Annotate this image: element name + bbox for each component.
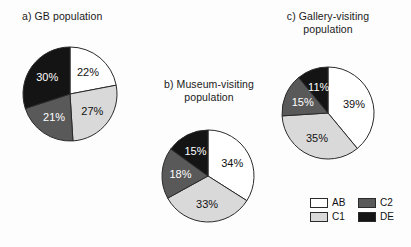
pie-slice-label-a-AB: 22% bbox=[77, 66, 99, 78]
legend-item-c1[interactable]: C1 bbox=[310, 212, 345, 222]
pie-slice-label-a-C2: 21% bbox=[43, 111, 65, 123]
legend-label-c1: C1 bbox=[332, 212, 345, 222]
pie-slice-label-b-C1: 33% bbox=[196, 198, 218, 210]
legend-item-ab[interactable]: AB bbox=[310, 198, 345, 208]
pie-slice-label-b-DE: 15% bbox=[184, 145, 206, 157]
legend-label-de: DE bbox=[380, 212, 394, 222]
legend-label-c2: C2 bbox=[380, 198, 393, 208]
pie-slice-label-a-C1: 27% bbox=[81, 105, 103, 117]
legend-swatch-c1 bbox=[310, 212, 328, 222]
pie-slice-label-c-AB: 39% bbox=[343, 98, 365, 110]
pie-slice-label-b-C2: 18% bbox=[169, 168, 191, 180]
pie-chart-figure: a) GB population b) Museum-visiting popu… bbox=[0, 0, 411, 247]
legend-swatch-ab bbox=[310, 198, 328, 208]
pie-chart-c: 39%35%15%11% bbox=[282, 67, 374, 159]
legend-label-ab: AB bbox=[332, 198, 345, 208]
legend-swatch-c2 bbox=[358, 198, 376, 208]
legend-swatch-de bbox=[358, 212, 376, 222]
pie-chart-b-title: b) Museum-visiting population bbox=[143, 78, 275, 103]
pie-slice-label-b-AB: 34% bbox=[221, 157, 243, 169]
pie-chart-b: 34%33%18%15% bbox=[162, 130, 254, 222]
pie-slice-label-a-DE: 30% bbox=[36, 71, 58, 83]
pie-slice-label-c-DE: 11% bbox=[308, 81, 329, 93]
pie-chart-a-title: a) GB population bbox=[6, 10, 152, 23]
pie-chart-a: 22%27%21%30% bbox=[23, 47, 117, 141]
pie-slice-label-c-C1: 35% bbox=[306, 132, 328, 144]
legend-item-de[interactable]: DE bbox=[358, 212, 394, 222]
pie-chart-c-title: c) Gallery-visiting population bbox=[262, 10, 394, 35]
legend-item-c2[interactable]: C2 bbox=[358, 198, 393, 208]
pie-slice-label-c-C2: 15% bbox=[292, 96, 314, 108]
legend: AB C1 C2 DE bbox=[308, 198, 404, 230]
